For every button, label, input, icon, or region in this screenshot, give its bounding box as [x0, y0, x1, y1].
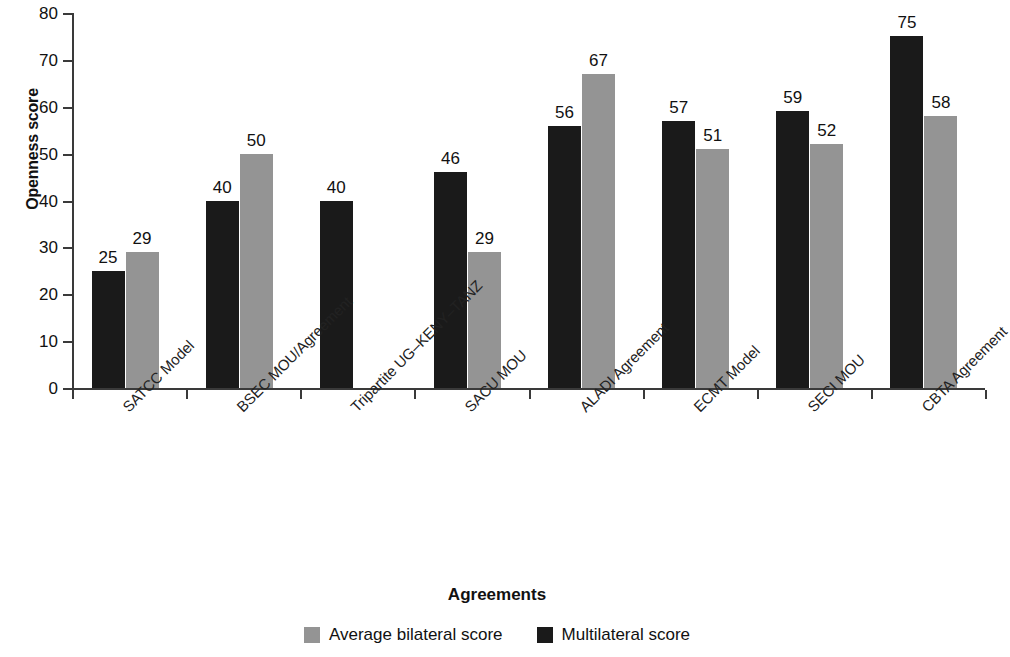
- x-axis-tick: [300, 390, 302, 399]
- y-axis-tick-label: 30: [6, 239, 58, 256]
- x-axis-tick: [871, 390, 873, 399]
- bar-value-label: 75: [880, 14, 933, 31]
- y-axis-tick: [63, 341, 72, 343]
- bar-value-label: 29: [458, 230, 511, 247]
- bar-value-label: 51: [686, 127, 739, 144]
- y-axis-tick: [63, 107, 72, 109]
- y-axis-tick: [63, 247, 72, 249]
- x-axis-tick: [529, 390, 531, 399]
- legend-item[interactable]: Multilateral score: [537, 626, 691, 643]
- bar-bilateral: [924, 116, 957, 388]
- y-axis-tick-label: 60: [6, 99, 58, 116]
- y-axis-tick-label: 70: [6, 52, 58, 69]
- bar-multilateral: [548, 126, 581, 389]
- chart-legend: Average bilateral scoreMultilateral scor…: [0, 626, 994, 643]
- bar-value-label: 52: [800, 122, 853, 139]
- y-axis-tick: [63, 154, 72, 156]
- x-axis-tick: [757, 390, 759, 399]
- bar-multilateral: [776, 111, 809, 388]
- y-axis-tick: [63, 388, 72, 390]
- bar-multilateral: [206, 201, 239, 389]
- y-axis-tick-label: 80: [6, 5, 58, 22]
- bar-multilateral: [890, 36, 923, 388]
- bar-bilateral: [240, 154, 273, 388]
- legend-swatch-icon: [304, 627, 320, 643]
- bar-value-label: 46: [424, 150, 477, 167]
- y-axis-tick: [63, 13, 72, 15]
- legend-item[interactable]: Average bilateral score: [304, 626, 503, 643]
- y-axis-line: [72, 13, 74, 390]
- bar-bilateral: [582, 74, 615, 388]
- bar-multilateral: [320, 201, 353, 389]
- bar-value-label: 59: [766, 89, 819, 106]
- y-axis-tick-label: 10: [6, 333, 58, 350]
- bar-value-label: 40: [310, 179, 363, 196]
- bar-value-label: 57: [652, 99, 705, 116]
- legend-label: Multilateral score: [562, 626, 691, 643]
- x-axis-tick: [72, 390, 74, 399]
- bar-bilateral: [810, 144, 843, 388]
- bar-multilateral: [434, 172, 467, 388]
- legend-swatch-icon: [537, 627, 553, 643]
- bar-bilateral: [696, 149, 729, 388]
- legend-label: Average bilateral score: [329, 626, 503, 643]
- bar-multilateral: [662, 121, 695, 388]
- bar-value-label: 67: [572, 52, 625, 69]
- x-axis-title: Agreements: [0, 585, 994, 605]
- x-axis-tick: [985, 390, 987, 399]
- y-axis-tick-label: 0: [6, 380, 58, 397]
- x-axis-tick: [414, 390, 416, 399]
- plot-area: 01020304050607080 2529405040462956675751…: [72, 13, 985, 390]
- y-axis-tick: [63, 294, 72, 296]
- bar-value-label: 29: [116, 230, 169, 247]
- bar-value-label: 58: [914, 94, 967, 111]
- y-axis-tick-label: 20: [6, 286, 58, 303]
- y-axis-tick: [63, 60, 72, 62]
- bar-value-label: 50: [230, 132, 283, 149]
- y-axis-tick-label: 50: [6, 146, 58, 163]
- y-axis-tick: [63, 201, 72, 203]
- bar-multilateral: [92, 271, 125, 388]
- x-axis-tick: [643, 390, 645, 399]
- y-axis-tick-label: 40: [6, 193, 58, 210]
- x-axis-tick: [186, 390, 188, 399]
